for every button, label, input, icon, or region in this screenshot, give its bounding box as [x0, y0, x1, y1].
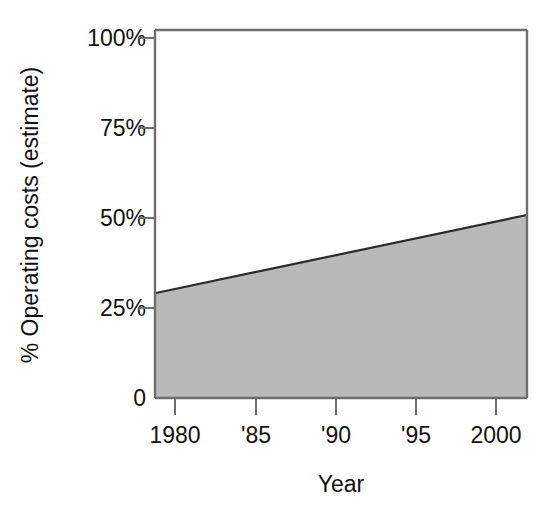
y-tick-label-0: 0 [133, 385, 146, 411]
x-tick-label-1985: '85 [241, 422, 271, 448]
area-chart-svg: % Operating costs (estimate) 100% 75% 50… [0, 0, 556, 524]
x-tick-label-1995: '95 [401, 422, 431, 448]
x-tick-label-2000: 2000 [470, 422, 521, 448]
y-axis-title: % Operating costs (estimate) [17, 67, 43, 364]
x-tick-label-1980: 1980 [149, 422, 200, 448]
x-tick-label-1990: '90 [321, 422, 351, 448]
chart-figure: % Operating costs (estimate) 100% 75% 50… [0, 0, 556, 524]
y-tick-label-100: 100% [87, 25, 146, 51]
x-axis-title: Year [318, 471, 365, 497]
